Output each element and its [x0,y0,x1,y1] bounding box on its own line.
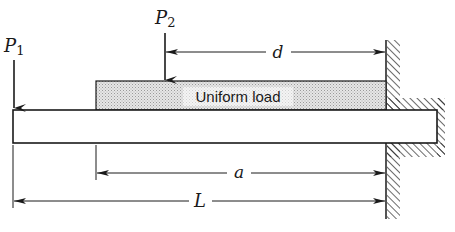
p2-symbol: P [154,7,168,28]
dimension-L-label: L [193,190,206,211]
beam-diagram: Uniform load P1 P2 d a L [0,0,455,232]
p1-symbol: P [3,35,17,56]
p2-subscript: 2 [167,15,175,30]
dimension-a: a [97,162,385,182]
beam [13,110,437,143]
uniform-load-label: Uniform load [195,88,280,105]
p2-load: P2 [154,7,175,80]
dimension-d-label: d [273,42,284,62]
svg-text:P1: P1 [3,35,24,58]
dimension-a-label: a [234,162,244,182]
uniform-load-block: Uniform load [96,81,386,110]
svg-text:P2: P2 [154,7,175,30]
dimension-L: L [14,190,385,211]
p1-subscript: 1 [16,43,24,58]
dimension-d: d [166,42,385,62]
p1-load: P1 [3,35,24,108]
